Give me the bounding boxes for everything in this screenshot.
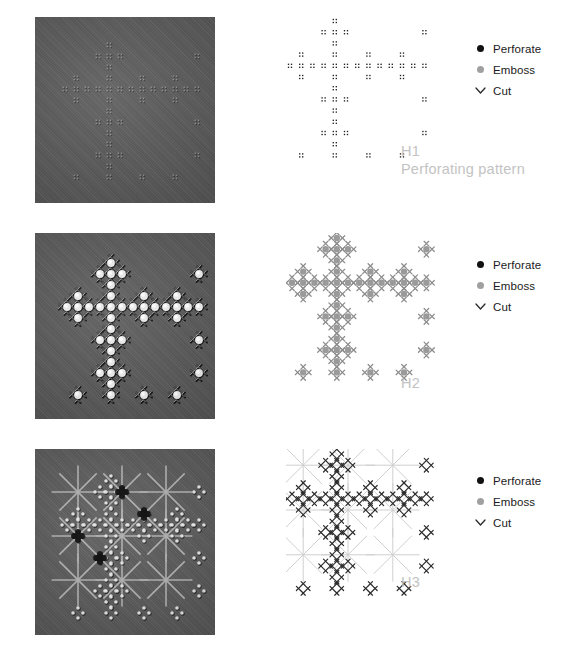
legend-item-cut: Cut <box>472 512 568 533</box>
gray-circle-icon <box>472 63 488 77</box>
row-code-label-h1: H1 <box>401 142 420 160</box>
legend-item-emboss: Emboss <box>472 275 568 296</box>
filled-circle-icon <box>472 474 488 488</box>
row-sub-label-h1: Perforating pattern <box>401 160 525 178</box>
legend-item-emboss: Emboss <box>472 59 568 80</box>
legend-h3: Perforate Emboss Cut <box>472 470 568 533</box>
figure-row-h1: Perforate Emboss Cut H1 Perforating patt… <box>0 0 570 216</box>
diagram-panel-h2 <box>286 233 436 393</box>
legend-label-perforate: Perforate <box>493 259 541 271</box>
legend-label-emboss: Emboss <box>493 64 535 76</box>
legend-label-emboss: Emboss <box>493 496 535 508</box>
gray-circle-icon <box>472 495 488 509</box>
photo-vignette <box>35 17 215 203</box>
filled-circle-icon <box>472 42 488 56</box>
photo-vignette <box>35 449 215 635</box>
legend-label-cut: Cut <box>493 517 511 529</box>
gray-circle-icon <box>472 279 488 293</box>
photo-panel-h3 <box>35 449 215 635</box>
photo-panel-h1 <box>35 17 215 203</box>
chevron-down-icon <box>472 300 488 314</box>
legend-item-perforate: Perforate <box>472 38 568 59</box>
legend-label-perforate: Perforate <box>493 475 541 487</box>
photo-panel-h2 <box>35 233 215 419</box>
figure-row-h3: Perforate Emboss Cut H3 <box>0 432 570 648</box>
row-code-label-h3: H3 <box>401 573 420 591</box>
legend-h2: Perforate Emboss Cut <box>472 254 568 317</box>
photo-vignette <box>35 233 215 419</box>
chevron-down-icon <box>472 516 488 530</box>
legend-label-cut: Cut <box>493 85 511 97</box>
legend-h1: Perforate Emboss Cut <box>472 38 568 101</box>
legend-item-cut: Cut <box>472 296 568 317</box>
figure-root: Perforate Emboss Cut H1 Perforating patt… <box>0 0 570 648</box>
legend-item-cut: Cut <box>472 80 568 101</box>
legend-item-perforate: Perforate <box>472 254 568 275</box>
figure-row-h2: Perforate Emboss Cut H2 <box>0 216 570 432</box>
diagram-pattern-h2 <box>286 233 436 393</box>
filled-circle-icon <box>472 258 488 272</box>
chevron-down-icon <box>472 84 488 98</box>
row-code-label-h2: H2 <box>401 374 420 392</box>
legend-label-emboss: Emboss <box>493 280 535 292</box>
legend-item-perforate: Perforate <box>472 470 568 491</box>
legend-label-cut: Cut <box>493 301 511 313</box>
legend-label-perforate: Perforate <box>493 43 541 55</box>
legend-item-emboss: Emboss <box>472 491 568 512</box>
